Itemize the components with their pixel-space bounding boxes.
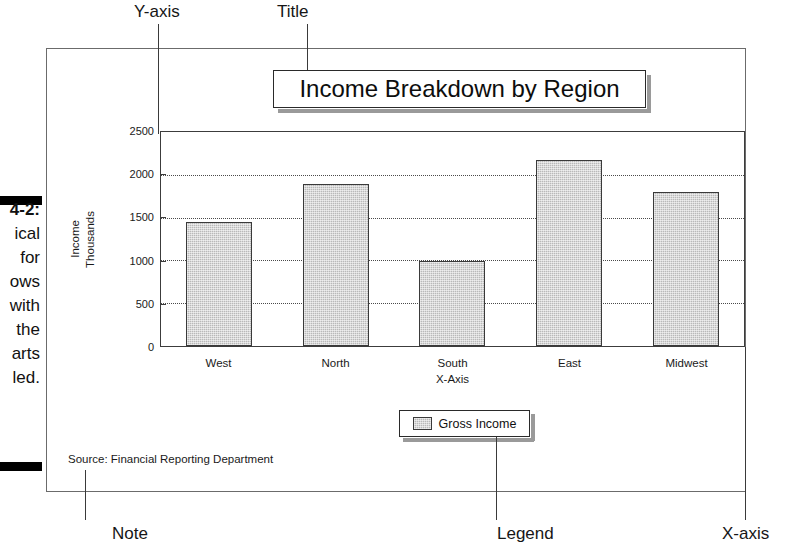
bar-midwest[interactable]: [653, 192, 719, 346]
plot-area: [160, 131, 745, 347]
annotation-note-label: Note: [112, 524, 148, 544]
caption-line: arts: [0, 342, 40, 366]
y-tick-label: 0: [148, 341, 154, 353]
y-axis-title: Income Thousands: [58, 131, 106, 347]
y-axis-title-line-1: Income: [69, 220, 81, 258]
y-tick-mark: [160, 174, 166, 175]
bar-slot-north: [278, 132, 395, 346]
y-tick-mark: [160, 304, 166, 305]
bar-south[interactable]: [419, 261, 485, 346]
plot-area-wrapper: [160, 131, 745, 347]
x-label-south: South: [394, 357, 511, 369]
chart-legend[interactable]: Gross Income: [399, 410, 530, 437]
bar-east[interactable]: [536, 160, 602, 346]
bar-slot-west: [161, 132, 278, 346]
source-note: Source: Financial Reporting Department: [68, 453, 273, 465]
annotation-x-axis-leader: [745, 347, 746, 520]
caption-line: with: [0, 294, 40, 318]
x-axis-labels: West North South East Midwest: [160, 357, 745, 369]
caption-line: 4-2:: [0, 198, 40, 222]
annotation-y-axis-leader: [158, 24, 159, 134]
bar-slot-south: [394, 132, 511, 346]
y-tick-label: 500: [136, 298, 154, 310]
figure-page: 4-2: ical for ows with the arts led. Y-a…: [0, 0, 801, 555]
caption-line: led.: [0, 366, 40, 390]
caption-line: ows: [0, 270, 40, 294]
annotation-note-leader: [85, 470, 86, 520]
bar-north[interactable]: [303, 184, 369, 346]
y-axis-title-line-2: Thousands: [84, 211, 96, 268]
x-label-north: North: [277, 357, 394, 369]
y-tick-mark: [160, 261, 166, 262]
y-tick-label: 1500: [130, 211, 154, 223]
legend-label: Gross Income: [439, 417, 517, 431]
chart-title-box: Income Breakdown by Region: [273, 70, 646, 108]
caption-line: the: [0, 318, 40, 342]
bar-slot-midwest: [627, 132, 744, 346]
bar-west[interactable]: [186, 222, 252, 346]
legend-swatch-icon: [413, 417, 432, 430]
annotation-title-label: Title: [277, 2, 309, 22]
annotation-y-axis-label: Y-axis: [134, 2, 180, 22]
bar-slot-east: [511, 132, 628, 346]
chart-title: Income Breakdown by Region: [299, 75, 619, 103]
x-label-east: East: [511, 357, 628, 369]
annotation-legend-label: Legend: [497, 524, 554, 544]
annotation-legend-leader: [496, 437, 497, 520]
annotation-x-axis-label: X-axis: [722, 524, 769, 544]
y-tick-label: 1000: [130, 255, 154, 267]
caption-rule-bottom: [0, 462, 42, 471]
figure-caption: 4-2: ical for ows with the arts led.: [0, 198, 40, 390]
y-tick-label: 2000: [130, 168, 154, 180]
y-tick-label: 2500: [130, 125, 154, 137]
y-axis-ticks: 2500 2000 1500 1000 500 0: [108, 131, 154, 347]
x-label-midwest: Midwest: [628, 357, 745, 369]
x-label-west: West: [160, 357, 277, 369]
bars-layer: [161, 132, 744, 346]
caption-line: for: [0, 246, 40, 270]
y-tick-mark: [160, 217, 166, 218]
x-axis-title: X-Axis: [160, 373, 745, 385]
annotation-title-leader: [307, 24, 308, 76]
caption-line: ical: [0, 222, 40, 246]
